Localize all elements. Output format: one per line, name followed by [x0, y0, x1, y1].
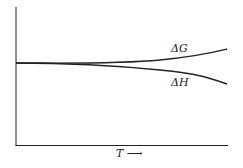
delta-g-label: ΔG [171, 42, 188, 55]
x-axis-label: T ⟶ [116, 147, 143, 160]
chart-canvas [0, 0, 243, 168]
delta-g-curve [16, 49, 227, 63]
delta-h-curve [16, 63, 227, 84]
delta-h-label: ΔH [171, 76, 189, 89]
